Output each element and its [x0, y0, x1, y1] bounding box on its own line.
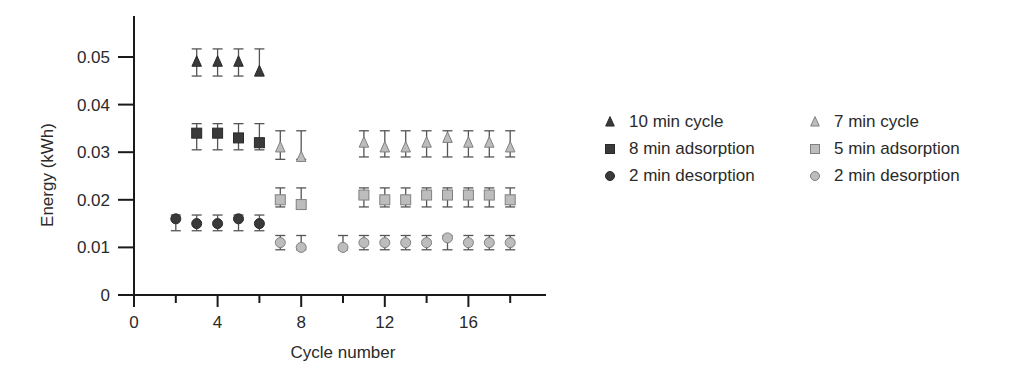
legend-item: 2 min desorption: [603, 164, 808, 187]
circle-marker: [171, 214, 181, 224]
square-marker: [359, 190, 369, 200]
triangle-marker: [464, 137, 474, 148]
circle-marker: [213, 219, 223, 229]
legend-label: 8 min adsorption: [629, 139, 755, 159]
triangle-marker: [443, 132, 453, 143]
x-tick-label: 16: [459, 313, 478, 332]
triangle-icon: [808, 115, 822, 129]
series-10-min-cycle: [192, 49, 265, 76]
y-axis-title: Energy (kWh): [38, 123, 57, 227]
square-marker: [443, 190, 453, 200]
circle-icon-shape: [606, 171, 615, 180]
circle-marker: [380, 238, 390, 248]
square-marker: [275, 195, 285, 205]
y-tick-label: 0.05: [77, 48, 110, 67]
x-tick-label: 8: [296, 313, 305, 332]
circle-icon: [808, 169, 822, 183]
series-2-min-desorption: [171, 214, 265, 231]
x-axis-title: Cycle number: [291, 343, 396, 362]
triangle-marker: [485, 137, 495, 148]
square-icon: [808, 142, 822, 156]
legend-item: 5 min adsorption: [808, 137, 1008, 160]
square-icon-shape: [606, 144, 615, 153]
circle-marker: [275, 238, 285, 248]
legend-item: 2 min desorption: [808, 164, 1008, 187]
x-tick-label: 12: [375, 313, 394, 332]
circle-marker: [463, 238, 473, 248]
y-tick-label: 0.02: [77, 191, 110, 210]
triangle-icon: [603, 115, 617, 129]
circle-marker: [234, 214, 244, 224]
legend-label: 7 min cycle: [834, 112, 919, 132]
legend-label: 2 min desorption: [629, 166, 755, 186]
series-8-min-adsorption: [192, 124, 265, 150]
circle-marker: [443, 233, 453, 243]
triangle-marker: [505, 141, 515, 152]
y-tick-label: 0: [101, 286, 110, 305]
x-tick-label: 0: [129, 313, 138, 332]
circle-marker: [505, 238, 515, 248]
legend-item: 8 min adsorption: [603, 137, 808, 160]
data-series: [171, 49, 515, 252]
series-2-min-desorption: [275, 233, 515, 253]
circle-icon: [603, 169, 617, 183]
square-icon-shape: [811, 144, 820, 153]
y-tick-label: 0.04: [77, 96, 110, 115]
triangle-marker: [380, 141, 390, 152]
circle-marker: [484, 238, 494, 248]
scatter-chart: 00.010.020.030.040.050481216 Cycle numbe…: [0, 0, 1015, 375]
square-marker: [463, 190, 473, 200]
legend-item: 10 min cycle: [603, 110, 808, 133]
triangle-marker: [359, 137, 369, 148]
circle-marker: [401, 238, 411, 248]
square-marker: [484, 190, 494, 200]
legend-item: 7 min cycle: [808, 110, 1008, 133]
circle-marker: [338, 242, 348, 252]
square-marker: [505, 195, 515, 205]
triangle-icon-shape: [606, 116, 615, 125]
axes: 00.010.020.030.040.050481216: [77, 16, 546, 332]
square-marker: [192, 128, 202, 138]
y-tick-label: 0.03: [77, 143, 110, 162]
square-marker: [380, 195, 390, 205]
legend: 10 min cycle7 min cycle8 min adsorption5…: [603, 110, 1008, 187]
circle-marker: [359, 238, 369, 248]
legend-label: 2 min desorption: [834, 166, 960, 186]
series-5-min-adsorption: [275, 188, 515, 210]
square-marker: [234, 133, 244, 143]
square-marker: [296, 200, 306, 210]
triangle-marker: [276, 141, 286, 152]
circle-marker: [254, 219, 264, 229]
triangle-marker: [422, 137, 432, 148]
triangle-marker: [401, 141, 411, 152]
y-tick-label: 0.01: [77, 238, 110, 257]
legend-label: 10 min cycle: [629, 112, 723, 132]
triangle-marker: [234, 56, 244, 67]
square-marker: [401, 195, 411, 205]
square-icon: [603, 142, 617, 156]
triangle-marker: [296, 151, 306, 162]
square-marker: [213, 128, 223, 138]
circle-marker: [192, 219, 202, 229]
circle-icon-shape: [811, 171, 820, 180]
square-marker: [422, 190, 432, 200]
legend-label: 5 min adsorption: [834, 139, 960, 159]
x-tick-label: 4: [213, 313, 222, 332]
series-7-min-cycle: [275, 131, 515, 162]
circle-marker: [422, 238, 432, 248]
triangle-icon-shape: [811, 116, 820, 125]
triangle-marker: [213, 56, 223, 67]
triangle-marker: [192, 56, 202, 67]
triangle-marker: [255, 65, 265, 76]
square-marker: [254, 138, 264, 148]
circle-marker: [296, 242, 306, 252]
